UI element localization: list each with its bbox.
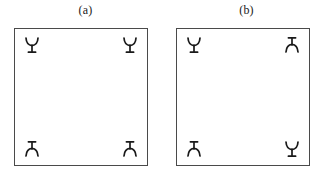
figure-container: (a) — [0, 0, 326, 176]
antenna-icon — [121, 35, 139, 55]
panel-b: (b) — [163, 0, 326, 176]
antenna-icon — [121, 139, 139, 159]
antenna-icon — [185, 35, 203, 55]
panel-a-box — [14, 28, 148, 166]
antenna-icon — [283, 35, 301, 55]
panel-b-label: (b) — [163, 2, 326, 18]
panel-a-label: (a) — [0, 2, 167, 18]
panel-b-box — [176, 28, 310, 166]
antenna-icon — [23, 35, 41, 55]
antenna-icon — [23, 139, 41, 159]
panel-a: (a) — [0, 0, 163, 176]
antenna-icon — [283, 139, 301, 159]
antenna-icon — [185, 139, 203, 159]
